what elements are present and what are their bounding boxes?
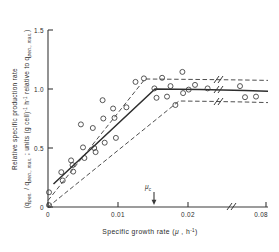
mu-c-arrow-head <box>152 200 157 205</box>
mu-c-annotation: μc <box>144 183 156 205</box>
y-tick-label-1_0: 1.0 <box>34 86 44 93</box>
data-point <box>82 156 87 161</box>
x-axis-label: Specific growth rate (μ , h-1) <box>102 228 197 236</box>
data-point <box>180 69 185 74</box>
x-tick-label-0: 0 <box>46 211 50 218</box>
data-point <box>173 103 178 108</box>
data-point <box>100 98 105 103</box>
data-point <box>78 122 83 127</box>
data-point <box>47 190 52 195</box>
data-point <box>193 82 198 87</box>
fit-line <box>54 89 269 184</box>
y-axis-label-line1: Relative specific production rate <box>11 68 19 170</box>
data-point <box>141 76 146 81</box>
y-tick-label-0: 0 <box>40 204 44 211</box>
y-ticks <box>48 30 53 207</box>
data-point <box>254 94 259 99</box>
data-point <box>90 126 95 131</box>
data-point <box>81 145 86 150</box>
x-tick-label-0_08: 0.08 <box>254 211 268 218</box>
data-point <box>69 158 74 163</box>
data-point <box>59 170 64 175</box>
data-point <box>111 106 116 111</box>
data-point <box>101 116 106 121</box>
data-point <box>243 95 248 100</box>
lower-envelope-line <box>48 101 268 207</box>
data-point <box>133 79 138 84</box>
data-point <box>124 105 129 110</box>
data-point <box>165 94 170 99</box>
data-point <box>113 135 118 140</box>
y-tick-label-0_5: 0.5 <box>34 145 44 152</box>
figure-container: 0 0.5 1.0 1.5 0 0.01 0.02 0.08 <box>0 0 279 252</box>
x-tick-label-0_02: 0.02 <box>181 211 195 218</box>
data-point <box>112 115 117 120</box>
chart-svg: 0 0.5 1.0 1.5 0 0.01 0.02 0.08 <box>0 0 279 252</box>
data-point <box>168 84 173 89</box>
y-axis-label-line2: (qpen. / qpen., max. ; units (g cell)-1 … <box>23 30 32 209</box>
data-point <box>238 84 243 89</box>
y-tick-label-1_5: 1.5 <box>34 27 44 34</box>
x-tick-label-0_01: 0.01 <box>111 211 125 218</box>
mu-c-label: μc <box>144 183 152 192</box>
data-point <box>181 91 186 96</box>
upper-envelope-line <box>48 79 268 201</box>
data-point <box>102 140 107 145</box>
data-point <box>154 95 159 100</box>
